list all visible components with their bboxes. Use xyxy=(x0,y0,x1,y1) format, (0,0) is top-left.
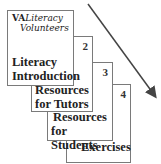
card-title-line1: Resources xyxy=(53,110,107,124)
card-number: 3 xyxy=(103,66,109,78)
card-number: 4 xyxy=(121,88,127,100)
card-literacy-introduction: VALiteracy Volunteers Literacy Introduct… xyxy=(7,10,74,86)
card-title-line2: for Tutors xyxy=(35,97,89,111)
logo-mark: VA xyxy=(12,13,25,23)
logo: VALiteracy Volunteers xyxy=(12,13,69,33)
card-title-line2: Introduction xyxy=(12,69,80,83)
card-number: 2 xyxy=(83,40,89,52)
logo-line2: Volunteers xyxy=(12,23,69,33)
card-title-line2: for Students xyxy=(51,124,112,152)
card-title-line1: Literacy xyxy=(12,55,57,69)
logo-line1: Literacy xyxy=(25,13,63,23)
